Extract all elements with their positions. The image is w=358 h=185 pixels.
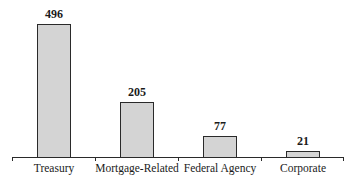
bar-value-label: 496	[14, 7, 94, 22]
bar-federal-agency	[203, 136, 237, 158]
x-axis-category-label: Treasury	[9, 162, 99, 174]
x-axis-tick	[178, 157, 179, 161]
bar-value-label: 77	[180, 119, 260, 134]
x-axis-category-label: Mortgage-Related	[92, 162, 182, 174]
bar-mortgage-related	[120, 102, 154, 158]
x-axis-tick	[95, 157, 96, 161]
bar-corporate	[286, 151, 320, 158]
bar-value-label: 205	[97, 85, 177, 100]
x-axis-category-label: Federal Agency	[175, 162, 265, 174]
bar-chart: 496Treasury205Mortgage-Related77Federal …	[0, 0, 358, 185]
bar-value-label: 21	[263, 134, 343, 149]
x-axis-tick	[261, 157, 262, 161]
x-axis-tick	[12, 157, 13, 161]
bar-treasury	[37, 24, 71, 158]
x-axis-category-label: Corporate	[258, 162, 348, 174]
x-axis-tick	[343, 157, 344, 161]
